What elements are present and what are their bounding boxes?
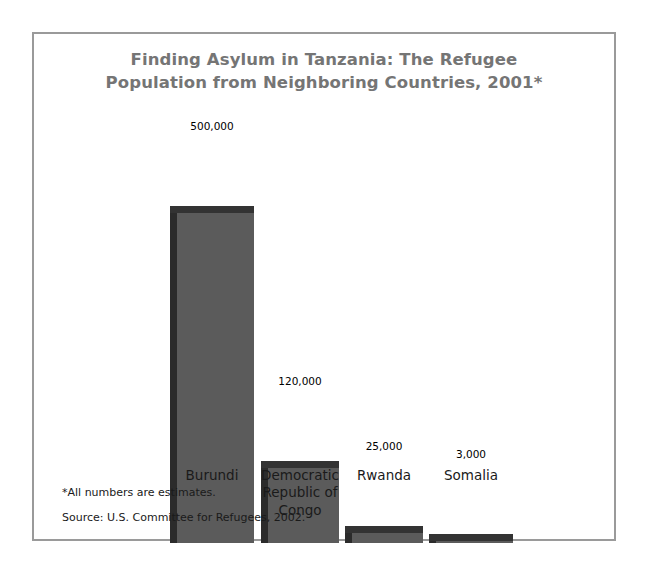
bar-somalia[interactable]	[429, 534, 513, 543]
footnote-estimates: *All numbers are estimates.	[62, 486, 216, 499]
bar-value-rwanda: 25,000	[366, 440, 403, 452]
bar-label-burundi: Burundi	[186, 467, 239, 484]
chart-frame: Finding Asylum in Tanzania: The Refugee …	[32, 32, 616, 541]
bar-side-face	[345, 532, 352, 543]
bar-value-democratic-republic-of-congo: 120,000	[278, 375, 321, 387]
bar-group-somalia: 3,000 Somalia	[429, 123, 513, 543]
bar-label-rwanda: Rwanda	[357, 467, 411, 484]
bar-front-face	[352, 532, 423, 543]
bar-rwanda[interactable]	[345, 526, 423, 543]
bar-group-burundi: 500,000 Burundi	[170, 123, 254, 543]
bar-group-democratic-republic-of-congo: 120,000 Democratic Republic of Congo	[261, 123, 339, 543]
plot-area: 500,000 Burundi 120,000 Democratic Repub…	[34, 34, 618, 543]
bar-top-face	[345, 526, 423, 533]
bar-value-somalia: 3,000	[456, 448, 486, 460]
footnote-source: Source: U.S. Committee for Refugees, 200…	[62, 511, 305, 524]
bar-top-face	[429, 534, 513, 541]
bar-value-burundi: 500,000	[190, 120, 233, 132]
bar-label-somalia: Somalia	[444, 467, 498, 484]
bar-top-face	[170, 206, 254, 213]
bar-group-rwanda: 25,000 Rwanda	[345, 123, 423, 543]
